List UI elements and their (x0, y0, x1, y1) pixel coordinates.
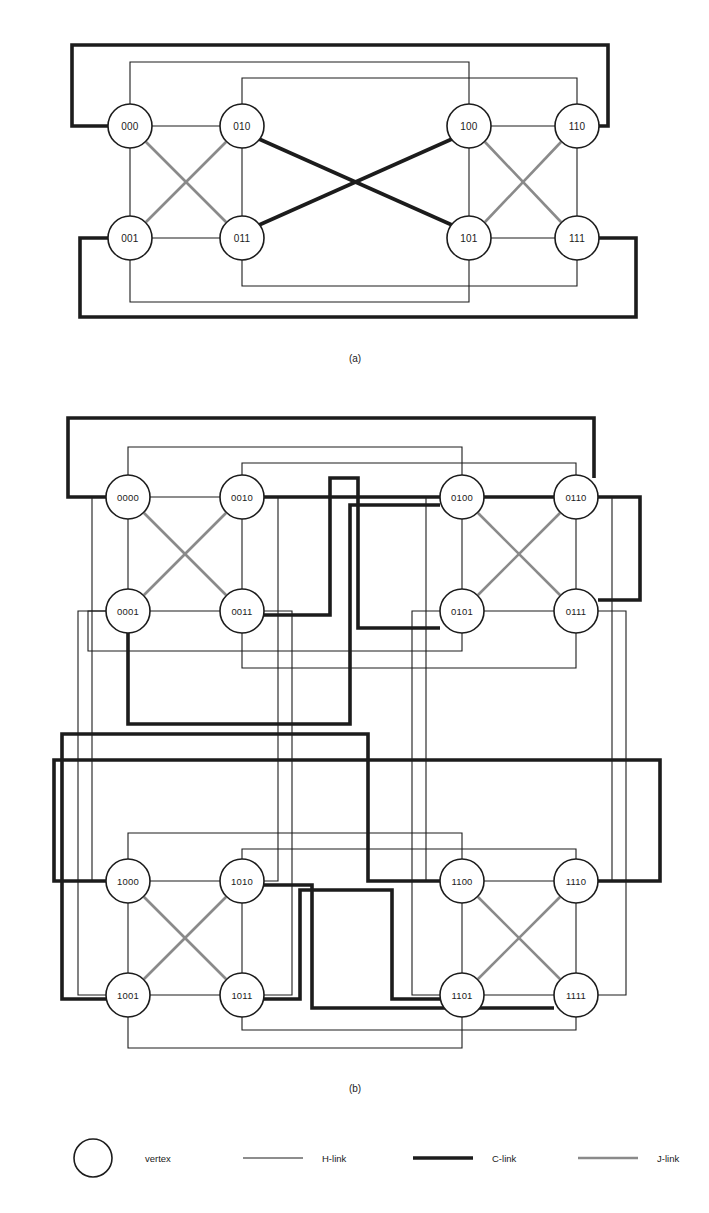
panel-a-link-h-link-000-100 (130, 62, 469, 104)
panel-b-link-h-link-0110-1110 (598, 497, 612, 881)
panel-a-vertex-100: 100 (447, 104, 491, 148)
panel-a-vertex-000: 000 (108, 104, 152, 148)
vertex-label: 011 (234, 233, 251, 244)
panel-b-link-c-link-1011-1101 (264, 890, 440, 999)
vertex-label: 0110 (565, 492, 586, 503)
vertex-label: 000 (121, 121, 139, 132)
panel-b-vertex-1010: 1010 (220, 859, 264, 903)
vertex-label: 0010 (231, 492, 253, 503)
network-topology-figure: 000010001011100110101111 (a) 00000010000… (0, 0, 709, 1213)
vertex-label: 1010 (231, 876, 253, 887)
vertex-label: 1100 (451, 876, 472, 887)
panel-b-link-h-link-0000-1000 (92, 497, 106, 881)
legend-label-c-link: C-link (492, 1153, 517, 1164)
panel-a-vertex-101: 101 (447, 216, 491, 260)
panel-b-vertex-0100: 0100 (440, 475, 484, 519)
legend-label-vertex: vertex (145, 1153, 171, 1164)
panel-a-vertex-110: 110 (555, 104, 599, 148)
vertex-label: 0001 (117, 606, 139, 617)
panel-b-vertex-0111: 0111 (554, 589, 598, 633)
panel-b-vertex-0011: 0011 (220, 589, 264, 633)
panel-a-link-h-link-011-111 (242, 260, 577, 286)
vertex-label: 0101 (451, 606, 473, 617)
panel-b-vertex-1100: 1100 (440, 859, 484, 903)
panel-b-link-h-link-0100-1100 (426, 497, 440, 881)
vertex-label: 1011 (231, 990, 252, 1001)
legend: vertexH-linkC-linkJ-link (74, 1139, 679, 1177)
panel-b-vertex-1101: 1101 (440, 973, 484, 1017)
vertex-label: 1000 (117, 876, 139, 887)
panel-b-vertex-1011: 1011 (220, 973, 264, 1017)
vertex-label: 0000 (117, 492, 139, 503)
vertex-label: 010 (233, 121, 251, 132)
panel-b-vertex-0010: 0010 (220, 475, 264, 519)
vertex-label: 001 (121, 233, 139, 244)
legend-vertex-icon (74, 1139, 112, 1177)
panel-a-vertex-010: 010 (220, 104, 264, 148)
panel-a-link-c-link-000-110 (72, 45, 608, 126)
vertex-label: 110 (569, 121, 586, 132)
panel-a-links (72, 45, 636, 317)
panel-b-vertex-1001: 1001 (106, 973, 150, 1017)
panel-a-link-h-link-001-101 (130, 260, 469, 302)
panel-b-vertex-1111: 1111 (554, 973, 598, 1017)
panel-b-link-h-link-1001-1101 (128, 1017, 462, 1048)
panel-a-vertex-111: 111 (555, 216, 599, 260)
panel-b-link-h-link-0010-1010 (264, 497, 278, 881)
legend-label-j-link: J-link (657, 1153, 679, 1164)
legend-label-h-link: H-link (322, 1153, 347, 1164)
caption-b: (b) (349, 1083, 361, 1094)
panel-b-link-h-link-0000-0100 (128, 447, 462, 475)
panel-b-vertex-0001: 0001 (106, 589, 150, 633)
panel-b-link-h-link-0010-0110 (242, 463, 576, 475)
vertex-label: 1110 (566, 876, 587, 887)
panel-b-vertex-1000: 1000 (106, 859, 150, 903)
vertex-label: 0111 (566, 606, 587, 617)
vertex-label: 101 (460, 233, 478, 244)
vertex-label: 1001 (117, 990, 139, 1001)
panel-a-vertex-011: 011 (220, 216, 264, 260)
vertex-label: 1101 (451, 990, 472, 1001)
vertex-label: 1111 (566, 990, 586, 1001)
panel-b-vertex-0101: 0101 (440, 589, 484, 633)
panel-b-vertex-1110: 1110 (554, 859, 598, 903)
panel-a-link-h-link-010-110 (242, 78, 577, 104)
vertex-label: 111 (569, 233, 585, 244)
panel-a-vertex-001: 001 (108, 216, 152, 260)
panel-b-vertex-0000: 0000 (106, 475, 150, 519)
vertex-label: 0011 (231, 606, 252, 617)
vertex-label: 0100 (451, 492, 473, 503)
caption-a: (a) (349, 353, 361, 364)
panel-b-link-c-link-0011-0101 (264, 478, 440, 628)
panel-b-nodes: 0000001000010011010001100101011110001010… (106, 475, 598, 1017)
figure-root: 000010001011100110101111 (a) 00000010000… (0, 0, 709, 1213)
vertex-label: 100 (460, 121, 478, 132)
panel-b-vertex-0110: 0110 (554, 475, 598, 519)
panel-a-link-c-link-001-111 (80, 238, 636, 317)
panel-b-link-h-link-1011-1111 (242, 1017, 576, 1030)
